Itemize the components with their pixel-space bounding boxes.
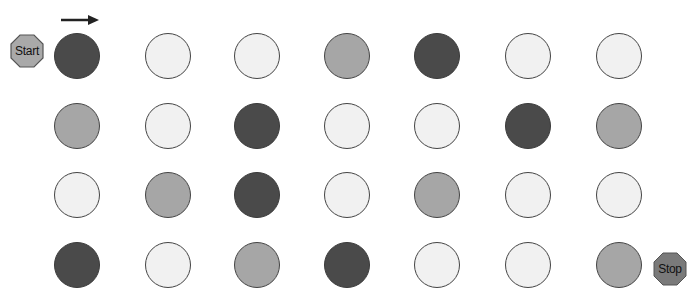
circle-light: [54, 172, 100, 218]
circle-dark: [414, 33, 460, 79]
circle-light: [145, 33, 191, 79]
circle-medium: [596, 242, 642, 288]
circle-light: [505, 242, 551, 288]
circle-medium: [414, 172, 460, 218]
circle-dark: [234, 172, 280, 218]
right-arrow-icon: [60, 13, 100, 27]
circle-medium: [145, 172, 191, 218]
stop-marker: Stop: [653, 252, 687, 286]
circle-medium: [324, 33, 370, 79]
circle-light: [505, 33, 551, 79]
circle-light: [505, 172, 551, 218]
circle-dark: [54, 33, 100, 79]
circle-light: [324, 172, 370, 218]
start-label: Start: [10, 34, 44, 68]
circle-light: [234, 33, 280, 79]
circle-medium: [234, 242, 280, 288]
circle-light: [145, 242, 191, 288]
circle-light: [414, 242, 460, 288]
circle-dark: [54, 242, 100, 288]
circle-medium: [54, 103, 100, 149]
circle-light: [145, 103, 191, 149]
circle-light: [414, 103, 460, 149]
circle-dark: [505, 103, 551, 149]
circle-medium: [596, 103, 642, 149]
circle-dark: [234, 103, 280, 149]
circle-dark: [324, 242, 370, 288]
start-marker: Start: [10, 34, 44, 68]
stop-label: Stop: [653, 252, 687, 286]
circle-light: [596, 33, 642, 79]
circle-light: [324, 103, 370, 149]
circle-light: [596, 172, 642, 218]
